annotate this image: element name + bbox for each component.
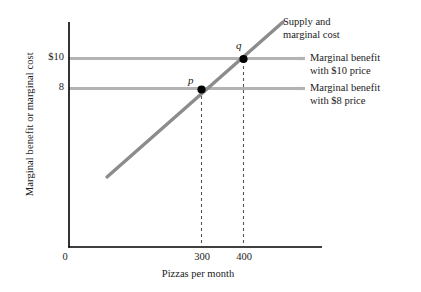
y-tick-label-8: 8 — [26, 81, 64, 93]
x-tick-label-400: 400 — [228, 251, 260, 263]
supply-marginal-cost-line — [107, 22, 283, 177]
x-tick-label-300: 300 — [186, 251, 218, 263]
x-tick-label-0: 0 — [55, 251, 75, 263]
point-label-q: q — [236, 39, 242, 52]
economics-chart-figure: Marginal benefit or marginal cost $10 8 … — [0, 0, 421, 292]
y-tick-label-10: $10 — [26, 51, 64, 63]
x-axis-title: Pizzas per month — [118, 268, 278, 280]
legend-label-mb8-line1: Marginal benefit — [310, 82, 380, 94]
chart-plot-area — [0, 0, 421, 292]
supply-line-annotation-line1: Supply and — [283, 16, 331, 28]
point-label-p: p — [188, 74, 194, 87]
data-point-q — [239, 55, 247, 63]
legend-label-mb10-line1: Marginal benefit — [310, 52, 380, 64]
data-point-p — [197, 85, 205, 93]
supply-line-annotation-line2: marginal cost — [283, 29, 340, 41]
legend-label-mb8-line2: with $8 price — [310, 95, 365, 107]
legend-label-mb10-line2: with $10 price — [310, 65, 371, 77]
